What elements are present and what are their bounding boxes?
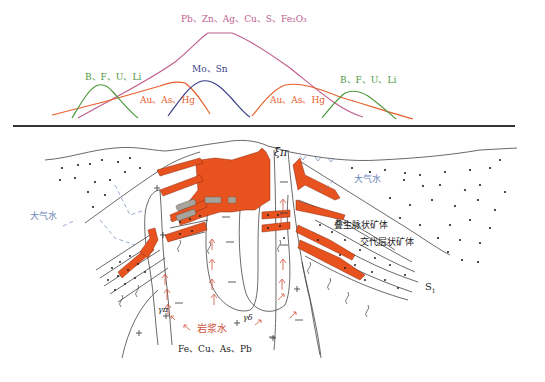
label-mo-sn: Mo、Sn [192, 65, 228, 74]
label-meteoric-water-right: 大气水 [354, 175, 381, 184]
label-meteoric-water-left: 大气水 [30, 212, 57, 221]
ore-right-vein-2 [296, 200, 345, 220]
label-pb-zn: Pb、Zn、Ag、Cu、S、Fe₂O₃ [181, 15, 307, 24]
label-s1-main: S [425, 281, 432, 292]
label-gamma-pi: γπ [158, 306, 168, 314]
ore-vein-5 [262, 210, 290, 219]
label-au-as-hg-right: Au、As、Hg [270, 96, 325, 105]
diagram-graphics [0, 0, 545, 382]
label-au-as-hg-left: Au、As、Hg [140, 96, 195, 105]
label-gamma-delta: γδ [243, 314, 253, 322]
label-deep-elements: Fe、Cu、As、Pb [178, 345, 252, 354]
label-b-f-u-li-right: B、F、U、Li [340, 76, 396, 85]
ore-bodies [118, 148, 365, 280]
label-xi-pi: ξπ [274, 147, 287, 158]
label-b-f-u-li-left: B、F、U、Li [85, 73, 141, 82]
label-magmatic-water: 岩浆水 [197, 324, 227, 334]
label-s1-sub: 1 [432, 287, 436, 294]
ore-vein-6 [262, 222, 290, 232]
ore-right-vein-1 [293, 158, 340, 200]
label-s1: S1 [425, 282, 436, 294]
curve-b-f-u-li-right [322, 91, 396, 119]
diagram-canvas: Pb、Zn、Ag、Cu、S、Fe₂O₃ B、F、U、Li Mo、Sn Au、As… [0, 0, 545, 382]
ore-left-branch [140, 228, 158, 258]
dike-left [145, 202, 158, 345]
cross-section [45, 140, 517, 358]
label-replacement-stratiform-orebody: 交代层状矿体 [360, 238, 414, 247]
label-superimposed-vein-orebody: 叠生脉状矿体 [334, 221, 388, 230]
